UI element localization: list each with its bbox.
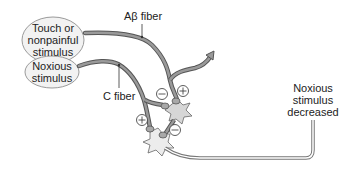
a-beta-fiber-label: Aβ fiber — [124, 10, 162, 22]
touch-line2: nonpainful — [22, 34, 84, 46]
touch-stimulus-label: Touch or nonpainful stimulus — [22, 22, 84, 58]
plus-sign-icon — [178, 86, 189, 97]
noxious-line2: stimulus — [25, 72, 79, 84]
minus-sign-icon — [170, 125, 181, 136]
output-label: Noxious stimulus decreased — [285, 82, 341, 118]
output-line3: decreased — [285, 106, 341, 118]
gate-control-diagram: Touch or nonpainful stimulus Noxious sti… — [0, 0, 353, 171]
minus-sign-icon — [157, 89, 168, 100]
noxious-stimulus-label: Noxious stimulus — [25, 60, 79, 84]
output-line2: stimulus — [285, 94, 341, 106]
output-line1: Noxious — [285, 82, 341, 94]
touch-line1: Touch or — [22, 22, 84, 34]
c-fiber-label: C fiber — [103, 90, 135, 102]
plus-sign-icon — [137, 115, 148, 126]
noxious-line1: Noxious — [25, 60, 79, 72]
touch-line3: stimulus — [22, 46, 84, 58]
